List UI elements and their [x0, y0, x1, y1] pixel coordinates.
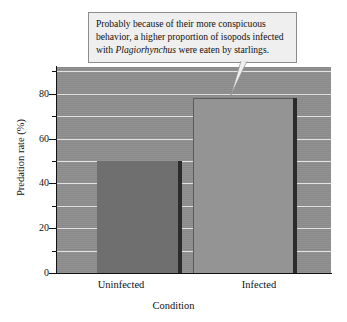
gridline-80 — [57, 94, 331, 95]
callout-line-3-prefix: with — [96, 44, 115, 55]
y-tick-label-80: 80 — [29, 89, 49, 99]
gridline-90 — [57, 71, 331, 72]
y-tick-major-80 — [49, 94, 57, 95]
x-tick-label-uninfected: Uninfected — [57, 279, 185, 290]
callout-line-3-suffix: were eaten by starlings. — [176, 44, 269, 55]
y-tick-minor-90 — [52, 71, 57, 72]
y-axis-line — [56, 66, 57, 274]
annotation-callout: Probably because of their more conspicuo… — [88, 12, 297, 63]
y-tick-minor-10 — [52, 251, 57, 252]
y-tick-label-20: 20 — [29, 223, 49, 233]
y-tick-minor-70 — [52, 116, 57, 117]
callout-species-name: Plagiorhynchus — [115, 44, 176, 55]
y-tick-label-0: 0 — [29, 268, 49, 278]
bar-infected — [193, 98, 293, 273]
y-tick-major-40 — [49, 183, 57, 184]
callout-line-1: Probably because of their more conspicuo… — [96, 17, 289, 30]
callout-line-3: with Plagiorhynchus were eaten by starli… — [96, 43, 289, 56]
plot-area — [57, 67, 331, 273]
y-axis-title: Predation rate (%) — [15, 98, 26, 218]
y-tick-major-20 — [49, 228, 57, 229]
x-axis-line — [56, 273, 332, 274]
y-tick-major-0 — [49, 273, 57, 274]
y-tick-major-60 — [49, 139, 57, 140]
y-tick-label-60: 60 — [29, 134, 49, 144]
callout-line-2: behavior, a higher proportion of isopods… — [96, 30, 289, 43]
bar-infected-shadow — [293, 98, 297, 273]
y-tick-label-40: 40 — [29, 178, 49, 188]
bar-uninfected-shadow — [178, 161, 182, 273]
x-tick-label-infected: Infected — [195, 279, 323, 290]
x-axis-title: Condition — [0, 300, 347, 311]
bar-uninfected — [97, 161, 178, 273]
y-tick-minor-30 — [52, 206, 57, 207]
bar-chart-figure: 020406080 Predation rate (%) Uninfected … — [0, 0, 347, 322]
y-tick-minor-50 — [52, 161, 57, 162]
